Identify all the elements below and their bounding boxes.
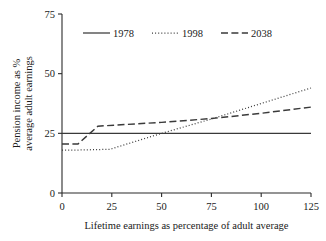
- y-tick-label: 25: [45, 128, 56, 139]
- x-tick-label: 25: [107, 201, 118, 212]
- x-tick-label: 0: [59, 201, 64, 212]
- chart-legend: 197819982038: [83, 28, 272, 39]
- data-series: [62, 88, 311, 150]
- axis-titles: Lifetime earnings as percentage of adult…: [11, 56, 289, 231]
- x-axis-title: Lifetime earnings as percentage of adult…: [84, 220, 288, 231]
- x-tick-label: 125: [303, 201, 319, 212]
- x-tick-label: 75: [206, 201, 217, 212]
- y-tick-label: 0: [50, 188, 55, 199]
- legend-label-2038: 2038: [251, 28, 272, 39]
- legend-label-1998: 1998: [182, 28, 203, 39]
- y-axis-title-line1: Pension income as %: [11, 58, 22, 148]
- legend-label-1978: 1978: [113, 28, 134, 39]
- chart-figure: 02550750255075100125 197819982038 Lifeti…: [0, 0, 326, 241]
- tick-labels: 02550750255075100125: [45, 9, 319, 212]
- y-tick-label: 75: [45, 9, 56, 20]
- y-axis-title-line2: average adult earnings: [23, 56, 34, 150]
- x-tick-label: 100: [253, 201, 269, 212]
- x-tick-label: 50: [156, 201, 167, 212]
- y-tick-label: 50: [45, 68, 56, 79]
- line-chart: 02550750255075100125 197819982038 Lifeti…: [0, 0, 326, 241]
- axes: [58, 14, 311, 197]
- series-line-1998: [62, 88, 311, 150]
